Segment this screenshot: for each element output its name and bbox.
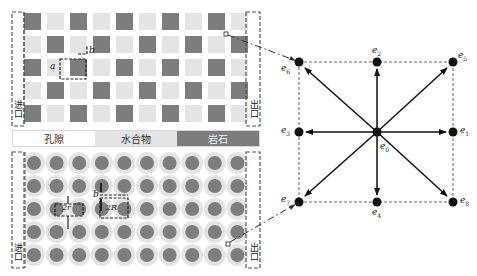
label-e4: e4 [372, 207, 381, 219]
grid-cell [116, 82, 133, 99]
node-e7 [295, 198, 304, 207]
top-panel-grid [24, 13, 248, 122]
label-e5: e5 [458, 50, 467, 62]
grid-cell [162, 105, 179, 122]
grid-cell [116, 105, 133, 122]
label-e1: e1 [460, 125, 469, 137]
rock-grain [117, 225, 131, 239]
rock-grain [208, 225, 222, 239]
grid-cell [24, 13, 41, 30]
rock-grain [230, 248, 244, 262]
rock-grain [140, 179, 154, 193]
grid-cell [47, 105, 64, 122]
grid-cell [93, 36, 110, 53]
grid-cell [162, 13, 179, 30]
rock-grain [72, 225, 86, 239]
grid-cell [208, 82, 225, 99]
annotation-b-top: b [89, 45, 95, 55]
grid-cell [208, 36, 225, 53]
rock-grain [117, 156, 131, 170]
annotation-2r: 2r [62, 203, 71, 212]
grid-cell [162, 59, 179, 76]
connector-start-top [224, 32, 228, 36]
grid-cell [139, 82, 156, 99]
rock-grain [230, 225, 244, 239]
node-e8 [449, 198, 458, 207]
vector-e5 [377, 68, 447, 132]
rock-grain [208, 156, 222, 170]
grid-cell [47, 13, 64, 30]
rock-grain [163, 202, 177, 216]
annotation-b-bottom: b [93, 189, 99, 199]
bottom-panel-grid [23, 152, 248, 266]
rock-grain [230, 179, 244, 193]
grid-cell [70, 105, 87, 122]
grid-cell [24, 36, 41, 53]
top-outlet-label: 出口 [248, 100, 261, 118]
grid-cell [162, 36, 179, 53]
grid-cell [139, 36, 156, 53]
rock-grain [185, 225, 199, 239]
node-e2 [373, 58, 382, 67]
rock-grain [140, 156, 154, 170]
grid-cell [162, 82, 179, 99]
node-e3 [295, 128, 304, 137]
grid-cell [116, 59, 133, 76]
grid-cell [139, 13, 156, 30]
rock-grain [230, 202, 244, 216]
top-inlet-label: 进口 [12, 100, 25, 118]
label-e3: e3 [281, 125, 290, 137]
rock-grain [95, 156, 109, 170]
grid-cell [70, 36, 87, 53]
bottom-inlet-label: 进口 [12, 243, 25, 261]
rock-grain [163, 156, 177, 170]
rock-grain [50, 156, 64, 170]
legend-hydrate: 水合物 [95, 131, 177, 146]
rock-grain [95, 248, 109, 262]
grid-cell [116, 36, 133, 53]
label-e2: e2 [372, 45, 381, 57]
grid-cell [208, 59, 225, 76]
grid-cell [24, 105, 41, 122]
grid-cell [93, 82, 110, 99]
grid-cell [139, 105, 156, 122]
bottom-outlet-label: 出口 [248, 243, 261, 261]
rock-grain [95, 225, 109, 239]
rock-grain [27, 225, 41, 239]
rock-grain [208, 202, 222, 216]
rock-grain [27, 248, 41, 262]
rock-grain [27, 202, 41, 216]
annotation-a: a [50, 61, 55, 71]
grid-cell [185, 105, 202, 122]
grid-cell [47, 82, 64, 99]
rock-grain [140, 248, 154, 262]
grid-cell [70, 13, 87, 30]
label-e6: e6 [281, 63, 290, 75]
grid-cell [93, 13, 110, 30]
vector-e6 [305, 68, 377, 132]
rock-grain [72, 179, 86, 193]
node-e0 [373, 128, 382, 137]
grid-cell [208, 105, 225, 122]
rock-grain [50, 248, 64, 262]
rock-grain [185, 248, 199, 262]
rock-grain [185, 179, 199, 193]
grid-cell [70, 59, 87, 76]
legend-rock: 岩石 [177, 131, 259, 146]
rock-grain [230, 156, 244, 170]
rock-grain [208, 179, 222, 193]
legend-pore: 孔隙 [13, 131, 95, 146]
rock-grain [27, 156, 41, 170]
rock-grain [185, 156, 199, 170]
rock-grain [27, 179, 41, 193]
grid-cell [185, 36, 202, 53]
vector-e7 [305, 132, 377, 196]
node-e5 [449, 58, 458, 67]
grid-cell [24, 59, 41, 76]
grid-cell [231, 105, 248, 122]
rock-grain [50, 225, 64, 239]
grid-cell [47, 36, 64, 53]
node-e6 [295, 58, 304, 67]
grid-cell [116, 13, 133, 30]
rock-grain [50, 179, 64, 193]
